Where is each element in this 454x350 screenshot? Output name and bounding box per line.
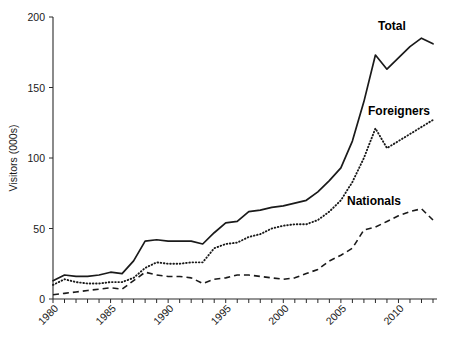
y-tick-label: 50 xyxy=(33,223,45,235)
x-tick-label: 1995 xyxy=(208,302,233,327)
x-tick-label: 1980 xyxy=(35,302,60,327)
series-label-nationals: Nationals xyxy=(347,194,401,208)
line-chart: 050100150200 198019851990199520002005201… xyxy=(0,0,454,350)
x-tick-label: 2010 xyxy=(381,302,406,327)
y-tick-group: 050100150200 xyxy=(27,11,53,305)
chart-container: 050100150200 198019851990199520002005201… xyxy=(0,0,454,350)
y-axis-title: Visitors (000s) xyxy=(7,125,19,192)
y-tick-label: 0 xyxy=(39,293,45,305)
x-tick-label-group: 1980198519901995200020052010 xyxy=(35,302,406,327)
x-tick-group xyxy=(53,299,433,303)
x-tick-label: 2000 xyxy=(266,302,291,327)
x-tick-label: 1990 xyxy=(151,302,176,327)
series-label-foreigners: Foreigners xyxy=(368,104,430,118)
y-tick-label: 200 xyxy=(27,11,45,23)
x-tick-label: 2005 xyxy=(323,302,348,327)
y-tick-label: 150 xyxy=(27,82,45,94)
y-tick-label: 100 xyxy=(27,152,45,164)
x-tick-label: 1985 xyxy=(93,302,118,327)
series-line-total xyxy=(53,38,433,281)
series-label-total: Total xyxy=(378,19,406,33)
